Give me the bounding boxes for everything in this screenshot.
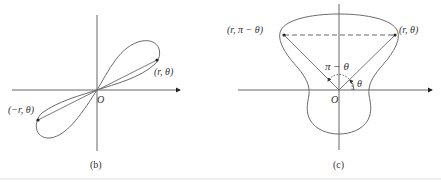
c-label-pi-minus-theta: π − θ bbox=[325, 60, 349, 72]
c-origin-label: O bbox=[331, 94, 338, 105]
panel-c: (r, θ) (r, π − θ) π − θ θ O (c) bbox=[227, 4, 432, 171]
panel-b: (r, θ) (−r, θ) O (b) bbox=[8, 15, 180, 171]
b-point-r-theta bbox=[155, 58, 158, 61]
c-arc-theta bbox=[350, 80, 354, 90]
c-label-r-theta: (r, θ) bbox=[399, 24, 419, 36]
polar-symmetry-figure: (r, θ) (−r, θ) O (b) (r, θ) (r, π − θ) π… bbox=[0, 0, 441, 183]
c-caption: (c) bbox=[333, 159, 344, 171]
c-label-r-pi-minus-theta: (r, π − θ) bbox=[227, 24, 264, 36]
c-label-theta: θ bbox=[357, 78, 362, 89]
c-point-r-theta bbox=[393, 33, 396, 36]
b-caption: (b) bbox=[90, 159, 102, 171]
c-point-r-pi-minus-theta bbox=[282, 33, 285, 36]
b-origin-label: O bbox=[97, 94, 104, 105]
b-point-neg-r-theta bbox=[36, 118, 39, 121]
b-label-neg-r-theta: (−r, θ) bbox=[8, 104, 35, 116]
b-label-r-theta: (r, θ) bbox=[154, 66, 174, 78]
